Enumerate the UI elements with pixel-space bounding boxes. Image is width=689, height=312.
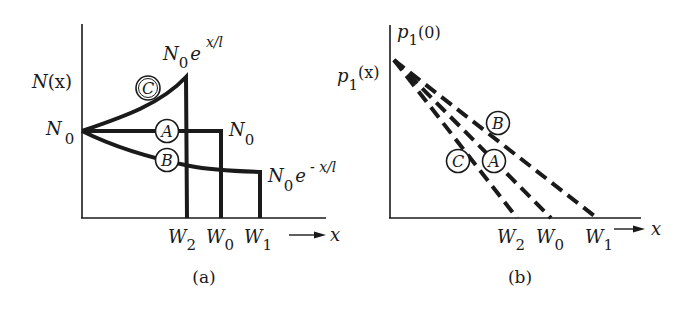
panel-a-tick-w2: W2 bbox=[168, 226, 196, 254]
panel-b-y-label: p1(x) bbox=[337, 63, 380, 94]
panel-b-x-label: x bbox=[651, 218, 661, 239]
panel-b-marker-a: A bbox=[483, 150, 506, 173]
panel-a-curve-c-label: N0ex/l bbox=[162, 34, 223, 72]
figure: C A B N(x) N0 N0ex/l N0 N0e- x/l bbox=[0, 0, 689, 312]
svg-text:C: C bbox=[142, 79, 154, 98]
panel-a-marker-c: C bbox=[136, 76, 160, 100]
panel-a-curve-b bbox=[82, 131, 260, 218]
panel-b-tick-w0: W0 bbox=[536, 226, 564, 254]
panel-a-x-arrow-icon bbox=[289, 232, 326, 239]
panel-b-tick-w1: W1 bbox=[585, 226, 613, 254]
panel-b-tick-w2: W2 bbox=[497, 226, 525, 254]
panel-a-tick-w1: W1 bbox=[244, 226, 272, 254]
panel-b-marker-c: C bbox=[447, 150, 470, 173]
svg-text:B: B bbox=[491, 114, 504, 133]
panel-a-caption: (a) bbox=[192, 267, 215, 287]
panel-a-y-label: N(x) bbox=[31, 71, 72, 92]
panel-a-curve-b-label: N0e- x/l bbox=[267, 159, 336, 195]
panel-b-line-a bbox=[394, 60, 551, 218]
panel-b-x-arrow-icon bbox=[614, 226, 645, 233]
svg-text:A: A bbox=[159, 122, 173, 141]
panel-b-caption: (b) bbox=[508, 267, 532, 287]
svg-text:C: C bbox=[452, 152, 464, 171]
panel-b-y-top-label: p1(0) bbox=[397, 21, 441, 49]
panel-a-x-label: x bbox=[330, 224, 340, 245]
panel-a-marker-a: A bbox=[156, 120, 179, 143]
svg-text:A: A bbox=[486, 152, 500, 171]
panel-b-line-b bbox=[394, 60, 597, 218]
svg-text:B: B bbox=[160, 151, 173, 170]
panel-a-curve-a-label: N0 bbox=[228, 119, 254, 149]
panel-b-marker-b: B bbox=[487, 112, 510, 135]
panel-a-tick-w0: W0 bbox=[206, 226, 234, 254]
panel-a-curve-c bbox=[82, 77, 187, 218]
panel-a-marker-b: B bbox=[156, 149, 179, 172]
panel-b: B C A p1(0) p1(x) W2 W0 W1 bbox=[337, 21, 661, 287]
panel-a-origin-label: N0 bbox=[45, 118, 74, 148]
panel-a: C A B N(x) N0 N0ex/l N0 N0e- x/l bbox=[31, 24, 340, 287]
panel-a-curve-a bbox=[82, 131, 221, 218]
